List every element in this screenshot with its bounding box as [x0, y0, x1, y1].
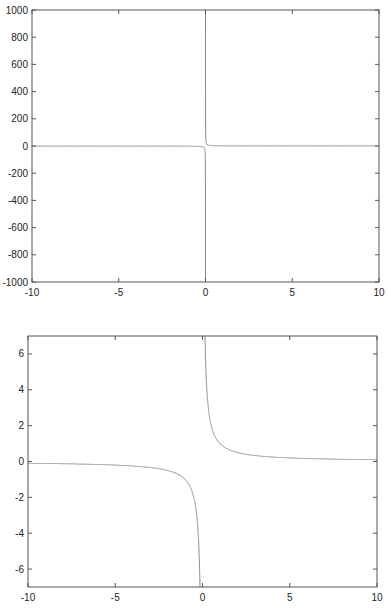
x-tick-label: -10 [21, 592, 36, 603]
x-tick-label: 0 [203, 287, 209, 298]
y-tick-label: 0 [22, 141, 28, 152]
plot-frame [28, 336, 377, 587]
y-tick-label: 600 [11, 59, 28, 70]
x-tick-label: 5 [287, 592, 293, 603]
y-tick-label: 4 [18, 384, 24, 395]
y-tick-label: -1000 [2, 277, 28, 288]
x-tick-label: 0 [200, 592, 206, 603]
plot-1: -1000-800-600-400-20002004006008001000-1… [2, 3, 385, 298]
curve-negative-branch [28, 463, 203, 593]
curve-positive-branch [203, 330, 378, 460]
y-tick-label: 0 [18, 456, 24, 467]
y-tick-label: -200 [8, 168, 28, 179]
plot-2: -6-4-20246-10-50510 [15, 330, 383, 603]
x-tick-label: 10 [371, 592, 383, 603]
y-tick-label: 2 [18, 420, 24, 431]
x-tick-label: -5 [114, 287, 123, 298]
x-tick-label: -5 [111, 592, 120, 603]
curve-negative-branch [32, 146, 206, 289]
y-tick-label: -6 [15, 564, 24, 575]
curve-positive-branch [206, 3, 380, 146]
x-tick-label: 10 [373, 287, 385, 298]
y-tick-label: 400 [11, 86, 28, 97]
y-tick-label: 200 [11, 113, 28, 124]
x-tick-label: -10 [25, 287, 40, 298]
chart-canvas: -1000-800-600-400-20002004006008001000-1… [0, 0, 388, 616]
y-tick-label: -400 [8, 195, 28, 206]
y-tick-label: 1000 [6, 5, 29, 16]
y-tick-label: 800 [11, 32, 28, 43]
y-tick-label: -800 [8, 249, 28, 260]
y-tick-label: -2 [15, 492, 24, 503]
y-tick-label: -4 [15, 528, 24, 539]
y-tick-label: 6 [18, 348, 24, 359]
y-tick-label: -600 [8, 222, 28, 233]
x-tick-label: 5 [289, 287, 295, 298]
